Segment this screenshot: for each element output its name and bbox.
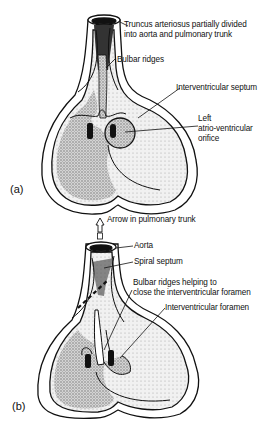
panel-b-drawing [38,218,199,418]
label-truncus-line1: Truncus arteriosus partially divided [124,20,247,30]
label-bulbar-ridges-line1: Bulbar ridges helping to [133,278,217,288]
panel-b-tag: (b) [12,400,25,412]
panel-a-drawing [42,15,198,214]
label-left-av-line2: atrio-ventricular [198,124,253,134]
label-bulbar-ridges-line2: close the interventricular foramen [133,288,251,298]
label-truncus-line2: into aorta and pulmonary trunk [124,30,232,40]
label-left-av-line3: orifice [198,134,219,144]
label-aorta: Aorta [134,241,153,251]
label-left-av-line1: Left [198,114,211,124]
label-bulbar-ridges: Bulbar ridges [117,55,164,65]
label-interventricular-foramen: Interventricular foramen [165,303,249,313]
label-spiral-septum: Spiral septum [134,257,183,267]
label-interventricular-septum: Interventricular septum [176,83,257,93]
panel-a-tag: (a) [10,183,23,195]
label-arrow-pulmonary-trunk: Arrow in pulmonary trunk [107,215,196,225]
